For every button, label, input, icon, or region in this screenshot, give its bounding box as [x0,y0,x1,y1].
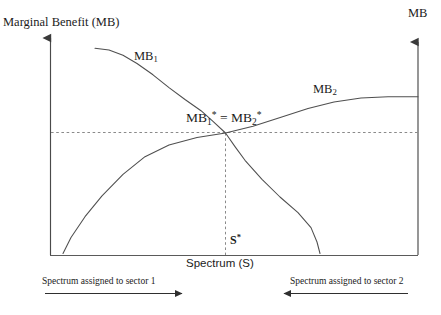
economics-figure: Marginal Benefit (MB) MB Spectrum (S) MB… [0,0,441,315]
curve-mb1 [95,48,320,253]
curve-label-mb2-base: MB [313,82,332,96]
equilibrium-price-base-1: MB [186,110,207,125]
curve-label-mb1-base: MB [134,49,153,63]
equilibrium-price-label: MB1* = MB2* [186,110,262,127]
x-axis-title: Spectrum (S) [186,258,254,270]
annotation-label-sector2: Spectrum assigned to sector 2 [290,277,403,287]
equilibrium-price-base-2: MB [231,110,252,125]
equilibrium-quantity-base: S [230,233,237,247]
equilibrium-price-equals: = [217,110,231,125]
equilibrium-price-star-2: * [257,109,262,120]
curve-label-mb1: MB1 [134,50,158,64]
y-axis-left-title: Marginal Benefit (MB) [3,16,119,29]
equilibrium-quantity-star: * [237,232,241,242]
y-axis-right-title: MB [408,7,427,20]
equilibrium-quantity-label: S* [230,233,241,246]
annotation-label-sector1: Spectrum assigned to sector 1 [42,277,155,287]
curve-label-mb2: MB2 [313,83,337,97]
curve-label-mb2-subscript: 2 [332,87,336,97]
curve-label-mb1-subscript: 1 [153,54,157,64]
